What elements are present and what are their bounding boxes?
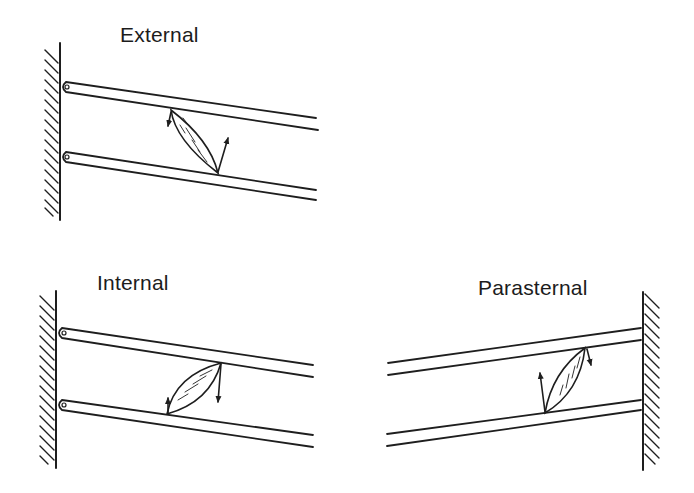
vertebral-wall-internal [40, 291, 56, 468]
lower-rib-parasternal [387, 400, 641, 446]
force-arrow-icon [168, 112, 171, 126]
panel-internal [40, 291, 313, 468]
force-arrow-icon [540, 373, 545, 412]
pivot-icon [62, 403, 66, 407]
internal-intercostal-muscle [167, 363, 221, 414]
panel-parasternal [387, 292, 659, 470]
pivot-icon [65, 155, 69, 159]
lower-rib-external [63, 152, 316, 200]
parasternal-intercostal-muscle [545, 348, 585, 413]
external-intercostal-muscle [171, 110, 218, 173]
upper-rib-parasternal [388, 328, 641, 375]
pivot-icon [65, 85, 69, 89]
upper-rib-external [63, 82, 318, 130]
force-arrow-icon [587, 349, 591, 365]
upper-rib-internal [59, 328, 313, 377]
force-arrow-icon [218, 138, 228, 172]
vertebral-wall-external [45, 43, 60, 220]
sternum-wall [643, 292, 659, 470]
panel-external [45, 43, 318, 220]
intercostal-diagram [0, 0, 694, 493]
pivot-icon [62, 331, 66, 335]
